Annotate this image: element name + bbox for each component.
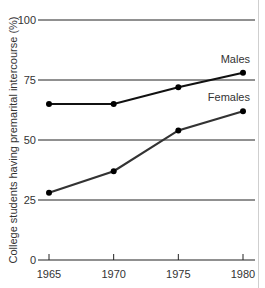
y-tick-label: 75 xyxy=(24,74,36,86)
x-tick-label: 1970 xyxy=(101,268,125,280)
y-tick-label: 25 xyxy=(24,194,36,206)
y-tick-label: 100 xyxy=(18,14,36,26)
data-point xyxy=(175,84,181,90)
data-point xyxy=(240,70,246,76)
data-point xyxy=(111,168,117,174)
series-line-females xyxy=(49,111,243,193)
data-point xyxy=(175,127,181,133)
series-label-females: Females xyxy=(208,91,251,103)
data-point xyxy=(111,101,117,107)
y-tick-label: 50 xyxy=(24,134,36,146)
x-tick-label: 1965 xyxy=(37,268,61,280)
series-label-males: Males xyxy=(221,53,251,65)
y-tick-label: 0 xyxy=(30,254,36,266)
data-point xyxy=(46,190,52,196)
data-point xyxy=(240,108,246,114)
x-tick-label: 1975 xyxy=(166,268,190,280)
line-chart: 02550751001965197019751980MalesFemales xyxy=(0,0,265,288)
x-tick-label: 1980 xyxy=(231,268,255,280)
data-point xyxy=(46,101,52,107)
